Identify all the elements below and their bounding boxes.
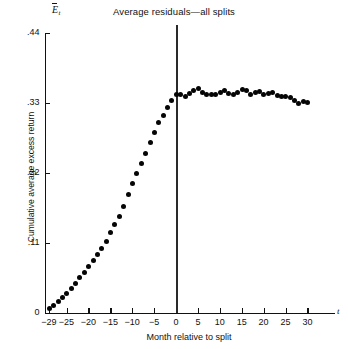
- data-point: [91, 258, 96, 263]
- y-axis-tick: [45, 243, 50, 244]
- data-point: [77, 275, 82, 280]
- data-point: [104, 239, 109, 244]
- x-axis-tick-label: 30: [294, 317, 320, 327]
- x-axis-tick: [88, 308, 89, 313]
- y-axis-tick-label: .44: [14, 27, 40, 37]
- data-point: [169, 98, 174, 103]
- y-axis-tick-label: .11: [14, 237, 40, 247]
- data-point: [86, 264, 91, 269]
- x-axis-tick: [67, 308, 68, 313]
- x-axis-tick: [264, 308, 265, 313]
- data-point: [121, 204, 126, 209]
- data-point: [143, 151, 148, 156]
- data-point: [139, 161, 144, 166]
- data-point: [69, 286, 74, 291]
- y-axis-tick-label: .22: [14, 167, 40, 177]
- x-axis-tick: [242, 308, 243, 313]
- y-axis-top-cap: [45, 33, 50, 34]
- data-point: [130, 181, 135, 186]
- data-point: [112, 222, 117, 227]
- data-point: [51, 303, 56, 308]
- x-axis-line: [45, 313, 335, 314]
- data-point: [165, 105, 170, 110]
- x-axis-tick: [110, 308, 111, 313]
- y-axis-tick: [45, 103, 50, 104]
- x-axis-tick: [286, 308, 287, 313]
- data-point: [161, 113, 166, 118]
- data-point: [64, 291, 69, 296]
- x-axis-tick: [307, 308, 308, 313]
- data-point: [82, 270, 87, 275]
- data-point: [117, 214, 122, 219]
- data-point: [134, 171, 139, 176]
- x-axis-tick: [220, 308, 221, 313]
- x-axis-tick: [154, 308, 155, 313]
- data-point: [148, 140, 153, 145]
- data-point: [305, 100, 310, 105]
- plot-area: 0.11.22.33.44−29−25−20−15−10−50510152025…: [0, 0, 348, 349]
- data-point: [156, 120, 161, 125]
- data-point: [60, 295, 65, 300]
- split-month-vertical-line: [176, 25, 178, 313]
- x-axis-tick: [132, 308, 133, 313]
- data-point: [73, 281, 78, 286]
- data-point: [126, 192, 131, 197]
- y-axis-tick: [45, 173, 50, 174]
- data-point: [108, 230, 113, 235]
- data-point: [95, 252, 100, 257]
- y-axis-tick-label: .33: [14, 97, 40, 107]
- data-point: [152, 130, 157, 135]
- x-axis-tick: [198, 308, 199, 313]
- chart-figure: Average residuals—all splits Et t Cumula…: [0, 0, 348, 349]
- data-point: [99, 246, 104, 251]
- y-axis-tick-label: 0: [14, 307, 40, 317]
- data-point: [56, 299, 61, 304]
